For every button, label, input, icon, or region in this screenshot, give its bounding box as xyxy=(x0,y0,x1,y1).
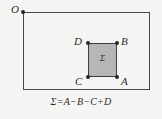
point-label-d: D xyxy=(74,36,82,47)
point-label-c: C xyxy=(75,76,82,87)
point-dot-c xyxy=(86,75,90,79)
point-dot-a xyxy=(115,75,119,79)
point-label-a: A xyxy=(121,76,128,87)
point-label-b: B xyxy=(121,36,128,47)
sigma-region-label: Σ xyxy=(88,54,117,63)
point-dot-d xyxy=(86,41,90,45)
point-label-o: O xyxy=(11,4,19,15)
caption-formula: Σ=A−B−C+D xyxy=(0,96,162,108)
inclusion-exclusion-diagram: Σ O D B C A Σ=A−B−C+D xyxy=(0,0,162,119)
point-dot-b xyxy=(115,41,119,45)
point-dot-o xyxy=(21,10,25,14)
